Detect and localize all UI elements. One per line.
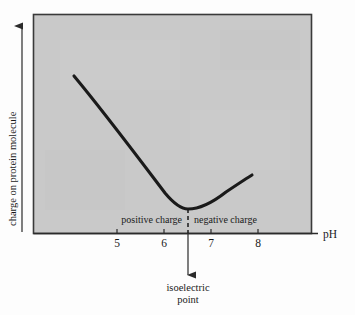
y-axis-label: charge on protein molecule bbox=[7, 111, 18, 226]
x-tick-label-7: 7 bbox=[208, 237, 214, 249]
figure-container: charge on protein molecule 5 6 7 8 pH po… bbox=[0, 0, 355, 315]
x-axis-label: pH bbox=[323, 228, 337, 241]
isoelectric-point-caption-line1: isoelectric bbox=[166, 282, 209, 293]
negative-charge-label: negative charge bbox=[194, 214, 257, 225]
isoelectric-point-caption-line2: point bbox=[177, 294, 199, 305]
x-tick-label-5: 5 bbox=[114, 237, 120, 249]
x-tick-label-8: 8 bbox=[255, 237, 261, 249]
positive-charge-label: positive charge bbox=[121, 214, 182, 225]
x-tick-label-6: 6 bbox=[161, 237, 167, 249]
